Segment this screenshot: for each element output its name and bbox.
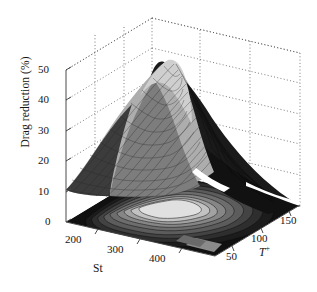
axis-z-tick-50: 50 bbox=[38, 63, 49, 75]
axis-z-tick-0: 0 bbox=[45, 215, 51, 227]
axis-y-tick-50: 50 bbox=[226, 250, 237, 262]
axis-x-tick-200: 200 bbox=[65, 233, 82, 245]
axis-x-tick-300: 300 bbox=[107, 243, 124, 255]
axis-z-tick-10: 10 bbox=[38, 185, 49, 197]
axis-y-label-superscript: + bbox=[265, 244, 270, 253]
axis-x-tick-400: 400 bbox=[149, 252, 166, 264]
axis-y-tick-150: 150 bbox=[280, 214, 297, 226]
axis-z-label: Drag reduction (%) bbox=[19, 37, 31, 167]
axis-x-label: St bbox=[93, 262, 103, 274]
figure-3d-surface-plot: Drag reduction (%) 50 40 30 20 10 0 200 … bbox=[0, 0, 317, 292]
axis-z-tick-30: 30 bbox=[38, 124, 49, 136]
axis-y-label: T+ bbox=[259, 244, 270, 258]
axis-z-tick-20: 20 bbox=[38, 154, 49, 166]
axis-z-tick-40: 40 bbox=[38, 93, 49, 105]
surface-3d bbox=[66, 60, 301, 214]
grid-top-edges bbox=[66, 18, 300, 70]
axis-z-ticks bbox=[66, 67, 71, 222]
axis-y-tick-100: 100 bbox=[251, 232, 268, 244]
